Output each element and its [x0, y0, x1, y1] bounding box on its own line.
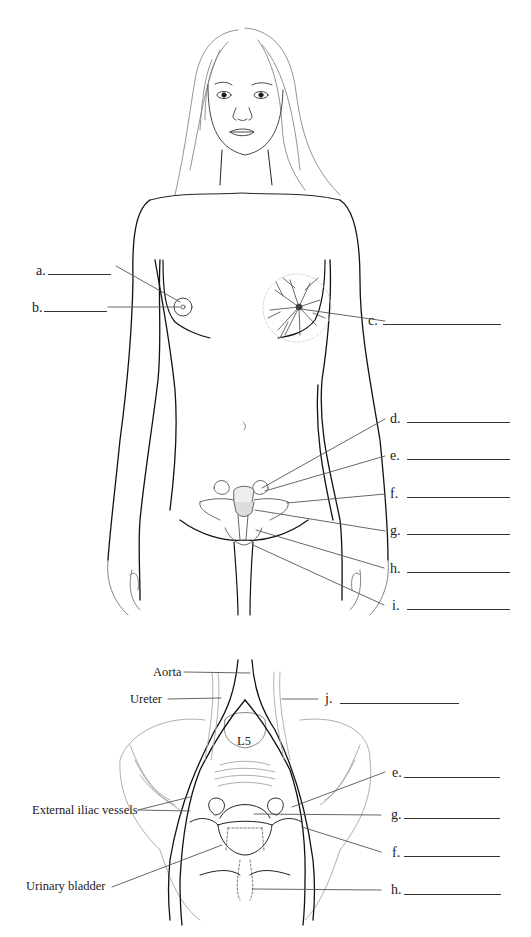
label-c: c.	[368, 314, 378, 328]
label-a: a.	[36, 264, 46, 278]
label-b: b.	[32, 301, 43, 315]
answer-blank-g[interactable]	[407, 534, 510, 535]
label-aorta: Aorta	[153, 666, 181, 679]
answer-blank-e[interactable]	[407, 459, 510, 460]
figure-breasts	[163, 260, 325, 338]
figure-hair	[175, 28, 340, 195]
answer-blank-f[interactable]	[407, 497, 510, 498]
figure-face	[208, 82, 283, 155]
label-i: i.	[392, 599, 399, 613]
answer-blank-j[interactable]	[340, 703, 459, 704]
label-external-iliac-vessels: External iliac vessels	[32, 804, 138, 817]
label-ureter: Ureter	[130, 693, 162, 706]
label-j: j.	[325, 692, 332, 706]
answer-blank-d[interactable]	[407, 422, 510, 423]
figure-neck-shoulders	[150, 150, 340, 200]
label-h-pelvis: h.	[391, 883, 402, 897]
label-urinary-bladder: Urinary bladder	[26, 880, 105, 893]
answer-blank-h[interactable]	[407, 572, 510, 573]
answer-blank-f-pelvis[interactable]	[404, 856, 500, 857]
label-d: d.	[390, 412, 401, 426]
label-g-pelvis: g.	[391, 808, 402, 822]
label-l5: L5	[237, 735, 251, 748]
top-leader-lines	[108, 266, 385, 605]
label-e-pelvis: e.	[392, 766, 402, 780]
anatomy-illustration	[0, 0, 531, 937]
label-f: f.	[390, 487, 398, 501]
label-f-pelvis: f.	[392, 846, 400, 860]
answer-blank-b[interactable]	[44, 311, 107, 312]
mammary-gland-illustration	[263, 274, 331, 342]
answer-blank-i[interactable]	[407, 609, 510, 610]
pelvic-vessels	[169, 660, 315, 925]
answer-blank-e-pelvis[interactable]	[404, 777, 500, 778]
answer-blank-h-pelvis[interactable]	[404, 894, 501, 895]
figure-navel	[243, 422, 245, 430]
answer-blank-c[interactable]	[383, 324, 501, 325]
label-e: e.	[390, 449, 400, 463]
label-g: g.	[390, 524, 401, 538]
pelvic-uterus	[190, 798, 302, 900]
answer-blank-g-pelvis[interactable]	[404, 818, 500, 819]
answer-blank-a[interactable]	[48, 274, 111, 275]
figure-legs	[180, 520, 308, 615]
label-h: h.	[390, 562, 401, 576]
